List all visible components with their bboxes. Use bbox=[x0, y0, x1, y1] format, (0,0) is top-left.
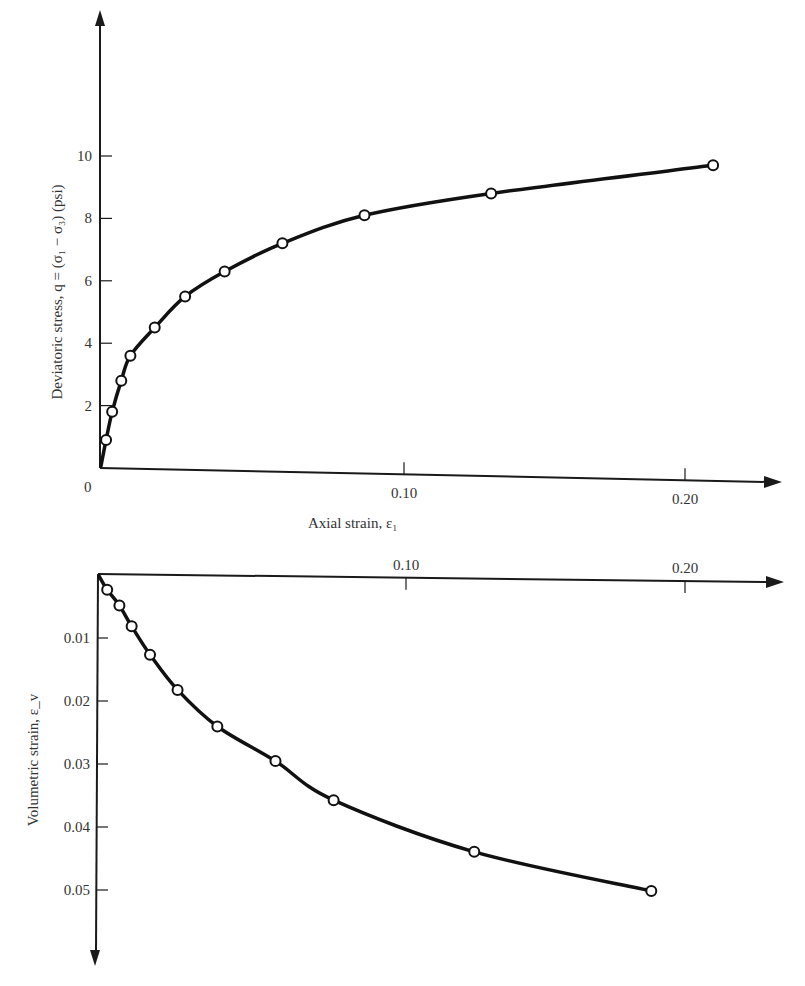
x-ticks: 0.100.20 bbox=[393, 557, 698, 593]
y-axis-label: Deviatoric stress, q = (σ₁ − σ₃) (psi) bbox=[49, 184, 66, 399]
data-point bbox=[708, 160, 718, 170]
data-point bbox=[469, 847, 479, 857]
y-ticks: 0.010.020.030.040.05 bbox=[64, 630, 108, 898]
data-point bbox=[127, 621, 137, 631]
data-point bbox=[101, 435, 111, 445]
data-point bbox=[212, 721, 222, 731]
stress-curve bbox=[101, 165, 713, 466]
data-point bbox=[220, 266, 230, 276]
data-point bbox=[107, 407, 117, 417]
y-tick-label: 0.04 bbox=[64, 819, 91, 835]
data-point bbox=[125, 351, 135, 361]
x-tick-label: 0.10 bbox=[391, 485, 417, 501]
figure: 246810 0.100.20 0 Deviatoric stress, q =… bbox=[0, 0, 805, 986]
volumetric-curve bbox=[99, 576, 651, 891]
data-markers bbox=[101, 160, 718, 445]
y-tick-label: 0.02 bbox=[64, 693, 90, 709]
volumetric-strain-chart: 0.010.020.030.040.05 0.100.20 Volumetric… bbox=[25, 557, 784, 966]
x-tick-label: 0.10 bbox=[393, 557, 419, 573]
x-axis bbox=[98, 574, 770, 582]
y-axis bbox=[96, 574, 98, 952]
y-tick-label: 10 bbox=[77, 148, 92, 164]
y-tick-label: 6 bbox=[85, 273, 93, 289]
y-axis-arrow-icon bbox=[90, 950, 100, 966]
data-point bbox=[150, 323, 160, 333]
x-axis-arrow-icon bbox=[766, 576, 784, 588]
y-axis-label: Volumetric strain, ε_v bbox=[25, 693, 41, 826]
deviatoric-stress-chart: 246810 0.100.20 0 Deviatoric stress, q =… bbox=[49, 10, 782, 531]
data-point bbox=[173, 685, 183, 695]
data-point bbox=[359, 210, 369, 220]
data-point bbox=[114, 601, 124, 611]
x-ticks: 0.100.20 bbox=[391, 462, 698, 507]
y-tick-label: 0.03 bbox=[64, 756, 90, 772]
data-point bbox=[329, 795, 339, 805]
data-point bbox=[116, 376, 126, 386]
data-point bbox=[486, 188, 496, 198]
y-ticks: 246810 bbox=[77, 148, 112, 414]
y-tick-label: 0.01 bbox=[64, 630, 90, 646]
data-point bbox=[277, 238, 287, 248]
y-tick-label: 8 bbox=[85, 210, 93, 226]
data-point bbox=[180, 291, 190, 301]
origin-label: 0 bbox=[84, 479, 92, 495]
y-tick-label: 0.05 bbox=[64, 882, 90, 898]
y-axis-arrow-icon bbox=[95, 10, 105, 26]
data-point bbox=[102, 585, 112, 595]
data-point bbox=[145, 650, 155, 660]
x-axis bbox=[100, 468, 768, 482]
x-tick-label: 0.20 bbox=[672, 560, 698, 576]
x-axis-label: Axial strain, ε₁ bbox=[308, 515, 397, 531]
data-point bbox=[646, 886, 656, 896]
y-tick-label: 4 bbox=[85, 335, 93, 351]
y-tick-label: 2 bbox=[85, 398, 93, 414]
x-tick-label: 0.20 bbox=[672, 491, 698, 507]
data-point bbox=[270, 756, 280, 766]
x-axis-arrow-icon bbox=[764, 476, 782, 488]
data-markers bbox=[102, 585, 656, 896]
